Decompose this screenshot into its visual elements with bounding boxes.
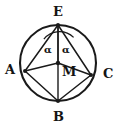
vertex-label-B: B xyxy=(53,110,64,123)
vertex-dot-M xyxy=(56,61,60,65)
angle-label-alpha-left: α xyxy=(44,45,52,55)
vertex-label-E: E xyxy=(53,5,63,18)
geometry-figure: E A C B M α α xyxy=(0,0,120,129)
vertex-dot-C xyxy=(89,73,93,77)
angle-label-alpha-right: α xyxy=(62,45,70,55)
vertex-label-A: A xyxy=(5,63,15,76)
vertex-dot-B xyxy=(56,99,60,103)
vertex-dot-E xyxy=(56,23,60,27)
vertex-label-C: C xyxy=(103,67,113,80)
vertex-dot-A xyxy=(23,69,27,73)
center-label-M: M xyxy=(62,65,76,78)
